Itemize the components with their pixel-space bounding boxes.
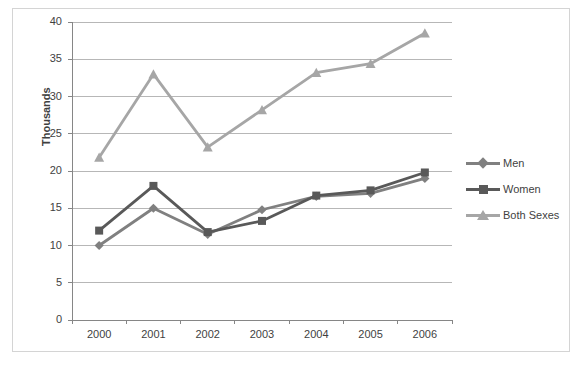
legend-swatch (466, 208, 500, 222)
legend-item-women[interactable]: Women (466, 176, 574, 202)
y-tick-label: 10 (40, 239, 62, 251)
y-tick-label: 40 (40, 15, 62, 27)
data-point-marker (367, 186, 375, 194)
legend-swatch (466, 182, 500, 196)
data-point-marker (421, 168, 429, 176)
data-point-marker (204, 228, 212, 236)
data-point-marker (312, 192, 320, 200)
legend-triangle-marker-icon (477, 210, 489, 220)
chart-container: Thousands 0510152025303540 2000200120022… (0, 0, 585, 366)
gridlines (72, 22, 452, 320)
x-tick-label: 2001 (131, 328, 175, 340)
y-tick-label: 0 (40, 313, 62, 325)
data-point-marker (95, 227, 103, 235)
y-tick-label: 15 (40, 201, 62, 213)
y-tick-label: 30 (40, 90, 62, 102)
legend-square-marker-icon (479, 185, 488, 194)
y-tick-label: 20 (40, 164, 62, 176)
x-tick-label: 2000 (77, 328, 121, 340)
legend-swatch (466, 156, 500, 170)
legend-item-label: Men (500, 157, 524, 169)
legend-item-label: Both Sexes (500, 209, 559, 221)
chart-legend: MenWomenBoth Sexes (466, 150, 574, 228)
legend-item-men[interactable]: Men (466, 150, 574, 176)
legend-diamond-marker-icon (477, 157, 488, 168)
series-men (95, 174, 430, 250)
data-point-marker (257, 205, 266, 214)
y-tick-label: 35 (40, 52, 62, 64)
x-tick-label: 2003 (240, 328, 284, 340)
series-both-sexes (94, 28, 430, 162)
legend-item-both-sexes[interactable]: Both Sexes (466, 202, 574, 228)
data-point-marker (149, 182, 157, 190)
x-tick-label: 2006 (403, 328, 447, 340)
x-tick-label: 2004 (294, 328, 338, 340)
x-tick-label: 2005 (349, 328, 393, 340)
data-point-marker (148, 69, 158, 78)
legend-item-label: Women (500, 183, 541, 195)
x-tick-label: 2002 (186, 328, 230, 340)
series-line (99, 33, 425, 157)
y-tick-label: 5 (40, 276, 62, 288)
data-point-marker (420, 28, 430, 37)
y-tick-label: 25 (40, 127, 62, 139)
series-women (95, 168, 429, 236)
data-point-marker (258, 217, 266, 225)
